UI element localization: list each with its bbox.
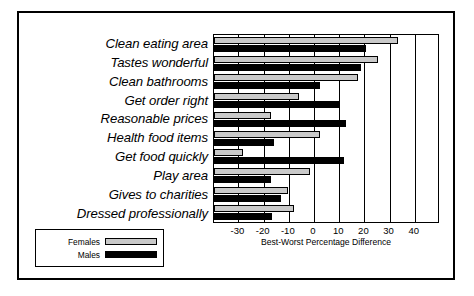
bar-row <box>214 203 438 222</box>
bar-males <box>214 120 346 127</box>
legend-swatch-female <box>105 238 157 245</box>
bar-males <box>214 64 361 71</box>
bar-females <box>214 187 288 194</box>
bar-row <box>214 166 438 185</box>
bar-males <box>214 195 281 202</box>
bar-males <box>214 213 272 220</box>
bar-rows <box>214 35 438 222</box>
bar-males <box>214 139 274 146</box>
bar-row <box>214 129 438 148</box>
category-label: Reasonable prices <box>19 110 212 129</box>
category-label: Health food items <box>19 129 212 148</box>
bar-row <box>214 35 438 54</box>
bar-row <box>214 91 438 110</box>
bar-row <box>214 185 438 204</box>
bar-females <box>214 112 271 119</box>
chart-legend: FemalesMales <box>35 229 164 267</box>
bar-males <box>214 176 271 183</box>
legend-item: Females <box>42 237 157 247</box>
bar-females <box>214 93 299 100</box>
bar-row <box>214 54 438 73</box>
category-label: Clean eating area <box>19 34 212 53</box>
legend-swatch-male <box>105 251 157 258</box>
x-tick-label: -10 <box>281 225 295 236</box>
bar-males <box>214 101 339 108</box>
category-axis-labels: Clean eating areaTastes wonderfulClean b… <box>19 34 212 223</box>
plot-area <box>213 34 439 223</box>
legend-label: Males <box>78 250 100 260</box>
x-tick-label: -20 <box>256 225 270 236</box>
x-tick-label: 0 <box>310 225 315 236</box>
category-label: Clean bathrooms <box>19 72 212 91</box>
bar-row <box>214 110 438 129</box>
x-tick-label: 20 <box>358 225 369 236</box>
category-label: Gives to charities <box>19 185 212 204</box>
category-label: Get food quickly <box>19 147 212 166</box>
bar-females <box>214 74 358 81</box>
x-tick-label: 40 <box>409 225 420 236</box>
chart-figure: Clean eating areaTastes wonderfulClean b… <box>17 11 455 280</box>
bar-males <box>214 82 320 89</box>
bar-females <box>214 56 378 63</box>
x-axis-title: Best-Worst Percentage Difference <box>213 237 439 247</box>
bar-females <box>214 131 320 138</box>
bar-row <box>214 147 438 166</box>
bar-males <box>214 45 366 52</box>
bar-males <box>214 157 344 164</box>
category-label: Play area <box>19 166 212 185</box>
x-tick-label: 10 <box>333 225 344 236</box>
bar-females <box>214 205 294 212</box>
bar-females <box>214 37 398 44</box>
bar-females <box>214 168 310 175</box>
x-tick-label: 30 <box>383 225 394 236</box>
category-label: Get order right <box>19 91 212 110</box>
legend-label: Females <box>68 237 100 247</box>
x-tick-label: -30 <box>231 225 245 236</box>
category-label: Dressed professionally <box>19 204 212 223</box>
category-label: Tastes wonderful <box>19 53 212 72</box>
bar-row <box>214 72 438 91</box>
bar-females <box>214 149 243 156</box>
legend-item: Males <box>42 250 157 260</box>
x-axis-tick-labels: -30-20-10010203040 <box>213 225 439 237</box>
